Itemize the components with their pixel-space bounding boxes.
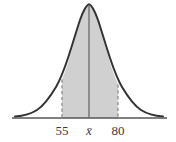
shaded-region (62, 4, 118, 118)
normal-distribution-figure: 55 x̄ 80 (0, 0, 176, 142)
axis-label-lower-bound: 55 (56, 124, 69, 137)
bell-curve-plot (0, 0, 176, 142)
axis-label-upper-bound: 80 (112, 124, 125, 137)
axis-label-mean: x̄ (86, 124, 92, 137)
